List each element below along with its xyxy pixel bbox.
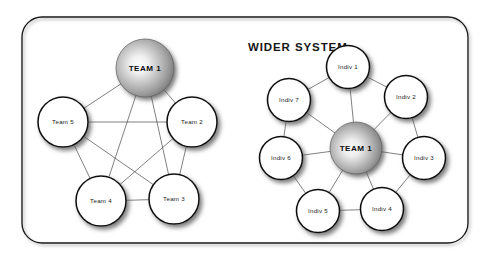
node-indiv-7[interactable]: Indiv 7: [268, 79, 311, 122]
node-label: TEAM 1: [129, 64, 162, 73]
node-label: Team 4: [90, 197, 112, 204]
node-team-2[interactable]: Team 2: [167, 97, 217, 147]
node-label: Team 3: [163, 195, 185, 202]
node-team-1-hub-right[interactable]: TEAM 1: [330, 122, 382, 174]
node-indiv-6[interactable]: Indiv 6: [260, 137, 303, 180]
node-team-4[interactable]: Team 4: [76, 176, 126, 226]
node-indiv-5[interactable]: Indiv 5: [297, 190, 340, 233]
node-label: Team 5: [52, 118, 74, 125]
node-team-3[interactable]: Team 3: [149, 174, 199, 224]
node-team-1-hub[interactable]: TEAM 1: [116, 39, 174, 97]
node-indiv-3[interactable]: Indiv 3: [403, 137, 446, 180]
node-label: Indiv 1: [338, 63, 358, 70]
node-label: Indiv 6: [271, 154, 291, 161]
node-label: Indiv 3: [414, 154, 434, 161]
node-label: Indiv 5: [308, 207, 328, 214]
node-team-5[interactable]: Team 5: [38, 97, 88, 147]
node-indiv-2[interactable]: Indiv 2: [385, 76, 428, 119]
individual-network-nodes: Indiv 7 Indiv 1 Indiv 2 Indiv 6 Indiv 3 …: [260, 46, 446, 233]
team-network-nodes: Team 5 Team 2 Team 4 Team 3 TEAM 1: [38, 39, 217, 226]
node-label: Indiv 2: [396, 93, 416, 100]
wider-system-diagram: Team 5 Team 2 Team 4 Team 3 TEAM 1 WIDER…: [0, 0, 490, 264]
node-indiv-1[interactable]: Indiv 1: [327, 46, 370, 89]
diagram-canvas: Team 5 Team 2 Team 4 Team 3 TEAM 1 WIDER…: [0, 0, 490, 264]
node-label: Team 2: [181, 118, 203, 125]
node-label: Indiv 4: [372, 205, 392, 212]
node-label: Indiv 7: [279, 96, 299, 103]
node-indiv-4[interactable]: Indiv 4: [361, 188, 404, 231]
node-label: TEAM 1: [340, 144, 373, 153]
